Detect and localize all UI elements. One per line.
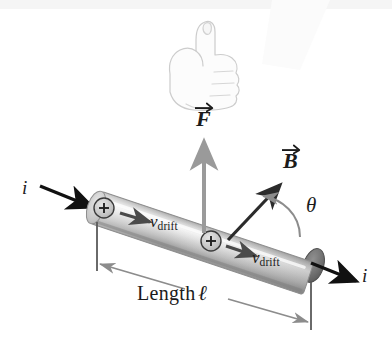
- field-vector-arrow: [228, 185, 280, 240]
- force-vector-label: F: [196, 108, 211, 130]
- angle-arc-theta: [263, 196, 300, 237]
- physics-diagram-magnetic-force-on-wire: F B θ i i vdrift vdrift Lengthℓ: [0, 0, 392, 344]
- drift-velocity-letter-1: v: [150, 212, 158, 231]
- vector-arrow-overbar-F: [195, 101, 214, 111]
- thumbs-up-hand-icon: [169, 21, 239, 110]
- background-smudge: [262, 0, 330, 70]
- scan-top-band: [0, 0, 392, 9]
- current-arrow-left: [40, 186, 92, 207]
- charge-carrier-1: [94, 198, 114, 218]
- drift-velocity-letter-2: v: [252, 248, 260, 267]
- drift-velocity-subscript-2: drift: [260, 256, 280, 268]
- dimension-arrow-right: [228, 299, 308, 322]
- length-label: Lengthℓ: [137, 283, 208, 304]
- charge-carrier-2: [201, 231, 221, 251]
- current-label-left: i: [22, 178, 27, 197]
- current-label-right: i: [362, 266, 367, 285]
- drift-velocity-subscript-1: drift: [158, 220, 178, 232]
- drift-velocity-label-2: vdrift: [252, 249, 280, 268]
- length-label-text: Length: [137, 282, 195, 304]
- angle-label-theta: θ: [306, 195, 316, 216]
- drift-velocity-label-1: vdrift: [150, 213, 178, 232]
- field-vector-label: B: [283, 150, 298, 172]
- length-symbol-ell: ℓ: [195, 281, 207, 305]
- vector-arrow-overbar-B: [282, 143, 301, 153]
